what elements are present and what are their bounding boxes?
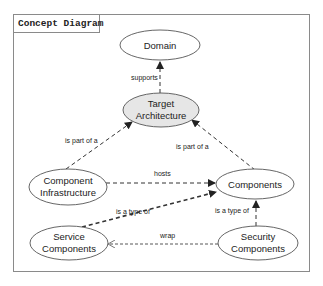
edge-security-type-of: is a type of [215, 201, 256, 226]
node-label-target: Target [148, 98, 175, 109]
node-component-infrastructure[interactable]: Component Infrastructure [29, 169, 107, 205]
node-target-architecture[interactable]: Target Architecture [123, 93, 199, 127]
edge-label-wrap: wrap [159, 232, 175, 240]
edge-label-infra-part-of: is part of a [65, 137, 98, 145]
edge-label-hosts: hosts [154, 170, 171, 177]
edge-label-service-type-of: is a type of [116, 208, 150, 216]
node-label-architecture: Architecture [136, 110, 187, 121]
concept-diagram-canvas: supports is part of a is part of a hosts… [0, 0, 323, 286]
node-label-security: Security [241, 231, 276, 242]
node-label-component: Component [43, 175, 92, 186]
node-service-components[interactable]: Service Components [30, 226, 108, 260]
edge-infra-part-of: is part of a [65, 122, 132, 169]
edge-components-part-of: is part of a [176, 120, 255, 170]
edge-label-supports: supports [131, 74, 158, 82]
node-components[interactable]: Components [216, 169, 294, 199]
node-domain[interactable]: Domain [120, 30, 200, 60]
edge-label-security-type-of: is a type of [215, 207, 249, 215]
node-label-security-components: Components [231, 243, 285, 254]
node-label-components: Components [228, 179, 282, 190]
node-label-service: Service [53, 231, 85, 242]
node-security-components[interactable]: Security Components [218, 226, 298, 260]
node-label-infrastructure: Infrastructure [40, 187, 96, 198]
edge-service-type-of: is a type of [82, 192, 216, 227]
edge-hosts: hosts [106, 170, 215, 183]
edge-supports: supports [131, 62, 160, 93]
edge-label-components-part-of: is part of a [176, 143, 209, 151]
edge-wrap: wrap [108, 232, 218, 244]
node-label-service-components: Components [42, 243, 96, 254]
node-label-domain: Domain [144, 40, 177, 51]
